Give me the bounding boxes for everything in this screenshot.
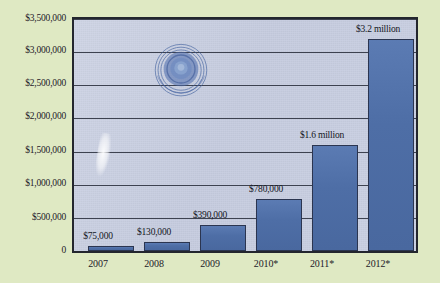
y-tick-label: $1,000,000 bbox=[0, 178, 66, 188]
bar-2011 bbox=[312, 145, 358, 251]
bar-2012 bbox=[368, 39, 414, 251]
bar-label-2012: $3.2 million bbox=[341, 24, 415, 34]
y-tick-label: $3,000,000 bbox=[0, 45, 66, 55]
gridline bbox=[74, 218, 416, 219]
bar-2009 bbox=[200, 225, 246, 251]
gridline bbox=[74, 52, 416, 53]
bar-label-2010: $780,000 bbox=[232, 184, 300, 194]
plot-area bbox=[72, 17, 418, 253]
bar-label-2009: $390,000 bbox=[176, 210, 244, 220]
scan-artifact bbox=[94, 132, 114, 177]
x-tick-label-2012: 2012* bbox=[344, 258, 412, 269]
y-tick-label: $2,000,000 bbox=[0, 111, 66, 121]
bar-2007 bbox=[88, 246, 134, 251]
bar-label-2011: $1.6 million bbox=[285, 130, 359, 140]
gridline bbox=[74, 19, 416, 20]
gridline bbox=[74, 152, 416, 153]
y-tick-label: $3,500,000 bbox=[0, 13, 66, 23]
bar-label-2008: $130,000 bbox=[120, 227, 188, 237]
gridline bbox=[74, 85, 416, 86]
y-tick-label: $2,500,000 bbox=[0, 78, 66, 88]
bar-chart: $3,500,000 $3,000,000 $2,500,000 $2,000,… bbox=[0, 0, 440, 283]
y-tick-label: 0 bbox=[0, 245, 66, 255]
concentric-circles-logo-icon bbox=[153, 41, 209, 97]
bar-2008 bbox=[144, 242, 190, 251]
gridline bbox=[74, 118, 416, 119]
paper-texture bbox=[74, 19, 416, 251]
y-tick-label: $500,000 bbox=[0, 212, 66, 222]
y-tick-label: $1,500,000 bbox=[0, 145, 66, 155]
bar-2010 bbox=[256, 199, 302, 251]
